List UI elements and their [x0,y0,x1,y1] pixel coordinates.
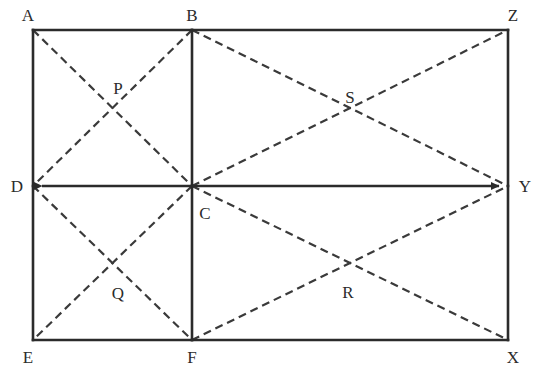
point-label-F: F [187,349,196,366]
point-label-E: E [23,349,33,366]
point-label-S: S [345,89,354,106]
point-label-A: A [22,7,34,24]
geometry-figure: ABZDCYEFXPSQR [0,0,544,383]
point-label-R: R [342,284,353,301]
point-label-D: D [11,178,23,195]
point-label-P: P [113,80,122,97]
geometry-canvas [0,0,544,383]
point-label-Z: Z [508,7,518,24]
point-label-B: B [186,7,197,24]
point-label-X: X [507,349,519,366]
point-label-Y: Y [519,178,531,195]
point-label-Q: Q [112,285,124,302]
point-label-C: C [199,205,210,222]
